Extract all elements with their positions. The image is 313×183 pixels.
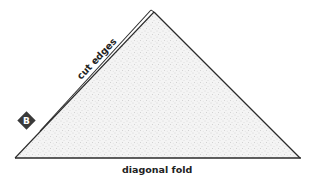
apex-cap (151, 10, 154, 12)
badge-letter: B (23, 116, 30, 126)
step-badge-b: B (17, 111, 35, 129)
triangle-fabric (15, 12, 300, 158)
diagonal-fold-label: diagonal fold (122, 164, 192, 175)
folded-triangle-diagram: cut edges diagonal fold B (0, 0, 313, 183)
